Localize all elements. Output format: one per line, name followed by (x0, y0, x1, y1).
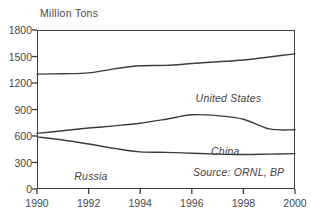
series-paths (37, 54, 295, 155)
y-tick-300: 300 (0, 157, 32, 169)
series-label-russia: Russia (74, 170, 107, 182)
series-label-china: China (211, 145, 239, 157)
y-tick-1200: 1200 (0, 77, 32, 89)
y-axis-ticks (32, 30, 37, 189)
source-attribution: Source: ORNL, BP (193, 166, 284, 178)
x-tick-1990: 1990 (14, 197, 60, 209)
series-line-russia (37, 137, 295, 155)
y-tick-0: 0 (0, 183, 32, 195)
x-tick-1992: 1992 (66, 197, 112, 209)
y-tick-600: 600 (0, 130, 32, 142)
x-tick-1998: 1998 (220, 197, 266, 209)
y-tick-1500: 1500 (0, 51, 32, 63)
series-line-united-states (37, 54, 295, 74)
series-label-united-states: United States (196, 92, 262, 104)
x-tick-2000: 2000 (272, 197, 311, 209)
x-axis-ticks (37, 189, 295, 194)
line-chart: Million Tons 0300600900120015001800 1990… (0, 0, 311, 218)
chart-svg-layer (0, 0, 311, 218)
series-line-china (37, 115, 295, 134)
x-tick-1996: 1996 (169, 197, 215, 209)
x-tick-1994: 1994 (117, 197, 163, 209)
y-tick-900: 900 (0, 104, 32, 116)
y-tick-1800: 1800 (0, 24, 32, 36)
